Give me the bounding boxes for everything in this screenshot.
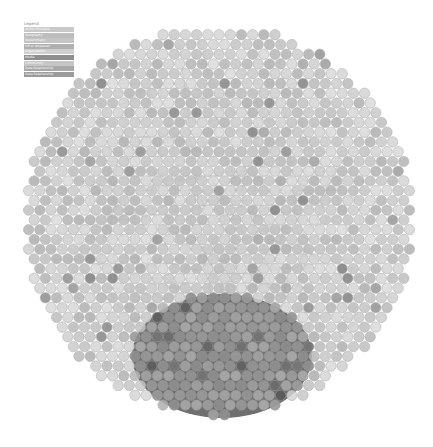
graph-node[interactable] bbox=[382, 185, 392, 195]
graph-node[interactable] bbox=[96, 156, 106, 166]
graph-node[interactable] bbox=[102, 185, 112, 195]
graph-node[interactable] bbox=[359, 147, 369, 157]
graph-node[interactable] bbox=[152, 98, 162, 108]
graph-node[interactable] bbox=[309, 254, 319, 264]
graph-node[interactable] bbox=[102, 322, 112, 332]
graph-node[interactable] bbox=[135, 224, 145, 234]
graph-node[interactable] bbox=[203, 302, 213, 312]
graph-node[interactable] bbox=[253, 59, 263, 69]
graph-node[interactable] bbox=[365, 273, 375, 283]
graph-node[interactable] bbox=[242, 156, 252, 166]
graph-node[interactable] bbox=[163, 176, 173, 186]
graph-node[interactable] bbox=[180, 341, 190, 351]
graph-node[interactable] bbox=[124, 108, 134, 118]
graph-node[interactable] bbox=[135, 49, 145, 59]
graph-node[interactable] bbox=[85, 293, 95, 303]
graph-node[interactable] bbox=[163, 117, 173, 127]
graph-node[interactable] bbox=[242, 312, 252, 322]
graph-node[interactable] bbox=[175, 39, 185, 49]
graph-node[interactable] bbox=[186, 351, 196, 361]
graph-node[interactable] bbox=[63, 293, 73, 303]
graph-node[interactable] bbox=[102, 108, 112, 118]
graph-node[interactable] bbox=[197, 351, 207, 361]
graph-node[interactable] bbox=[303, 127, 313, 137]
graph-node[interactable] bbox=[208, 371, 218, 381]
graph-node[interactable] bbox=[264, 137, 274, 147]
graph-node[interactable] bbox=[320, 254, 330, 264]
graph-node[interactable] bbox=[175, 176, 185, 186]
graph-node[interactable] bbox=[287, 156, 297, 166]
graph-node[interactable] bbox=[141, 273, 151, 283]
graph-node[interactable] bbox=[191, 302, 201, 312]
graph-node[interactable] bbox=[303, 283, 313, 293]
graph-node[interactable] bbox=[343, 176, 353, 186]
graph-node[interactable] bbox=[186, 293, 196, 303]
graph-node[interactable] bbox=[208, 351, 218, 361]
graph-node[interactable] bbox=[337, 185, 347, 195]
graph-node[interactable] bbox=[141, 390, 151, 400]
graph-node[interactable] bbox=[158, 205, 168, 215]
graph-node[interactable] bbox=[225, 185, 235, 195]
graph-node[interactable] bbox=[320, 215, 330, 225]
graph-node[interactable] bbox=[303, 322, 313, 332]
graph-node[interactable] bbox=[404, 185, 414, 195]
graph-node[interactable] bbox=[281, 283, 291, 293]
graph-node[interactable] bbox=[382, 224, 392, 234]
graph-node[interactable] bbox=[231, 390, 241, 400]
graph-node[interactable] bbox=[242, 254, 252, 264]
graph-node[interactable] bbox=[152, 215, 162, 225]
graph-node[interactable] bbox=[236, 185, 246, 195]
graph-node[interactable] bbox=[203, 147, 213, 157]
graph-node[interactable] bbox=[281, 341, 291, 351]
graph-node[interactable] bbox=[96, 293, 106, 303]
graph-node[interactable] bbox=[348, 127, 358, 137]
graph-node[interactable] bbox=[214, 147, 224, 157]
graph-node[interactable] bbox=[119, 234, 129, 244]
graph-node[interactable] bbox=[124, 205, 134, 215]
graph-node[interactable] bbox=[393, 244, 403, 254]
graph-node[interactable] bbox=[270, 302, 280, 312]
graph-node[interactable] bbox=[141, 234, 151, 244]
graph-node[interactable] bbox=[303, 263, 313, 273]
graph-node[interactable] bbox=[298, 176, 308, 186]
graph-node[interactable] bbox=[371, 283, 381, 293]
graph-node[interactable] bbox=[303, 166, 313, 176]
graph-node[interactable] bbox=[259, 108, 269, 118]
graph-node[interactable] bbox=[365, 254, 375, 264]
graph-node[interactable] bbox=[359, 263, 369, 273]
graph-node[interactable] bbox=[253, 351, 263, 361]
graph-node[interactable] bbox=[163, 390, 173, 400]
graph-node[interactable] bbox=[130, 312, 140, 322]
graph-node[interactable] bbox=[158, 263, 168, 273]
graph-node[interactable] bbox=[214, 380, 224, 390]
graph-node[interactable] bbox=[147, 322, 157, 332]
graph-node[interactable] bbox=[124, 166, 134, 176]
graph-node[interactable] bbox=[169, 30, 179, 40]
graph-node[interactable] bbox=[242, 293, 252, 303]
graph-node[interactable] bbox=[102, 361, 112, 371]
graph-node[interactable] bbox=[107, 371, 117, 381]
graph-node[interactable] bbox=[298, 59, 308, 69]
graph-node[interactable] bbox=[158, 147, 168, 157]
graph-node[interactable] bbox=[275, 254, 285, 264]
graph-node[interactable] bbox=[242, 176, 252, 186]
graph-node[interactable] bbox=[119, 293, 129, 303]
graph-node[interactable] bbox=[320, 312, 330, 322]
graph-node[interactable] bbox=[382, 283, 392, 293]
graph-node[interactable] bbox=[124, 322, 134, 332]
graph-node[interactable] bbox=[203, 166, 213, 176]
graph-node[interactable] bbox=[320, 137, 330, 147]
graph-node[interactable] bbox=[365, 312, 375, 322]
graph-node[interactable] bbox=[107, 195, 117, 205]
graph-node[interactable] bbox=[208, 332, 218, 342]
graph-node[interactable] bbox=[337, 224, 347, 234]
graph-node[interactable] bbox=[186, 137, 196, 147]
graph-node[interactable] bbox=[107, 98, 117, 108]
graph-node[interactable] bbox=[124, 224, 134, 234]
graph-node[interactable] bbox=[180, 30, 190, 40]
graph-node[interactable] bbox=[147, 380, 157, 390]
graph-node[interactable] bbox=[197, 390, 207, 400]
graph-node[interactable] bbox=[359, 341, 369, 351]
graph-node[interactable] bbox=[225, 361, 235, 371]
graph-node[interactable] bbox=[287, 390, 297, 400]
